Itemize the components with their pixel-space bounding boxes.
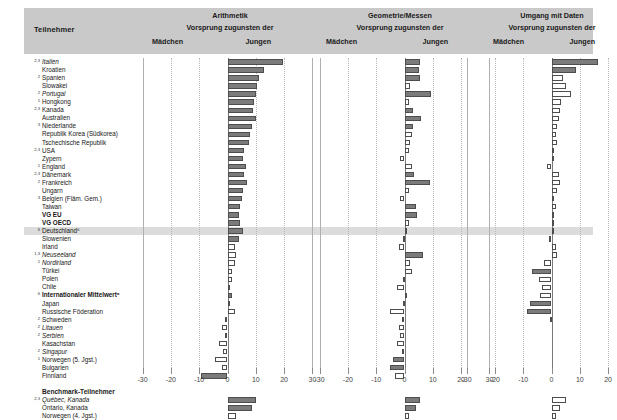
- bar-geometrie: [405, 108, 413, 113]
- bar-geometrie: [397, 341, 404, 346]
- axis-tick: [580, 368, 582, 374]
- bar-arithmetik: [228, 301, 230, 306]
- bar-arithmetik: [228, 116, 256, 121]
- bar-geometrie: [405, 124, 413, 129]
- bar-arithmetik: [228, 132, 251, 137]
- bar-arithmetik: [228, 244, 235, 249]
- participant-label: Schweden: [42, 316, 71, 324]
- bar-daten: [552, 83, 566, 88]
- bar-geometrie: [400, 333, 404, 338]
- bar-geometrie: [400, 196, 404, 201]
- gridline--10: [199, 58, 201, 368]
- footnote-marker: 2,3: [24, 395, 40, 403]
- bar-geometrie: [405, 204, 416, 209]
- bar-geometrie: [405, 413, 409, 418]
- gridline-20: [608, 58, 610, 368]
- participant-label: Kanada: [42, 106, 64, 114]
- bar-daten: [552, 91, 572, 96]
- bar-arithmetik: [228, 405, 252, 410]
- axis-tick-label: -20: [166, 376, 176, 383]
- bar-daten: [552, 116, 559, 121]
- bar-geometrie: [405, 260, 411, 265]
- axis-tick: [171, 368, 173, 374]
- footnote-marker: 3: [24, 194, 40, 202]
- bar-arithmetik: [228, 252, 236, 257]
- bar-geometrie: [405, 397, 421, 402]
- bar-arithmetik: [228, 196, 242, 201]
- participant-label: Québec, Kanada: [42, 396, 89, 404]
- axis-tick-label: -10: [518, 376, 528, 383]
- bar-daten: [530, 301, 551, 306]
- gridline-20: [284, 58, 286, 368]
- participant-label: Japan: [42, 300, 59, 308]
- bar-arithmetik: [228, 220, 241, 225]
- bar-geometrie: [402, 317, 405, 322]
- gridline-20: [461, 58, 463, 368]
- panel-subtitle: Vorsprung zugunsten der: [320, 23, 480, 32]
- panel-title: Arithmetik: [146, 11, 314, 20]
- bar-daten: [552, 59, 599, 64]
- panel-header-3: Umgang mit DatenVorsprung zugunsten derM…: [487, 8, 617, 54]
- axis-tick-label: 10: [576, 376, 584, 383]
- bar-daten: [552, 108, 560, 113]
- axis-tick: [256, 368, 258, 374]
- bar-daten: [552, 132, 556, 137]
- bar-daten: [552, 228, 555, 233]
- bar-geometrie: [405, 91, 432, 96]
- bar-arithmetik: [228, 260, 235, 265]
- bar-geometrie: [400, 156, 404, 161]
- gridline--10: [376, 58, 378, 368]
- bar-arithmetik: [228, 204, 241, 209]
- gridline-30: [489, 58, 491, 368]
- participant-label: Hongkong: [42, 98, 71, 106]
- participant-label: VG OECD: [42, 219, 71, 227]
- bar-geometrie: [403, 277, 405, 282]
- footnote-marker: 6: [24, 290, 40, 298]
- bar-geometrie: [405, 212, 418, 217]
- axis-tick-label: 20: [280, 376, 288, 383]
- bar-geometrie: [405, 75, 421, 80]
- participant-label: Zypern: [42, 155, 62, 163]
- panel-right-label: Jungen: [423, 37, 449, 46]
- bar-arithmetik: [228, 293, 232, 298]
- gridline--30: [143, 58, 145, 368]
- bar-arithmetik: [228, 99, 255, 104]
- bar-daten: [539, 277, 552, 282]
- participant-label: Frankreich: [42, 179, 72, 187]
- panel-subtitle: Vorsprung zugunsten der: [146, 23, 314, 32]
- bar-geometrie: [405, 148, 409, 153]
- bar-arithmetik: [228, 124, 252, 129]
- participant-label: Spanien: [42, 74, 65, 82]
- bar-geometrie: [405, 132, 412, 137]
- footnote-marker: 2,3: [24, 105, 40, 113]
- axis-tick-label: -10: [194, 376, 204, 383]
- axis-tick: [433, 368, 435, 374]
- participant-label: Kasachstan: [42, 340, 75, 348]
- participant-label: USA: [42, 147, 55, 155]
- participant-label: Finnland: [42, 372, 66, 380]
- participant-label: Türkei: [42, 267, 60, 275]
- participant-label: Litauen: [42, 324, 63, 332]
- bar-arithmetik: [228, 164, 246, 169]
- bar-daten: [549, 236, 552, 241]
- axis-tick-label: 0: [226, 376, 230, 383]
- bar-geometrie: [405, 59, 421, 64]
- gridline--30: [467, 58, 469, 368]
- footnote-marker: 2: [24, 315, 40, 323]
- bar-arithmetik: [228, 108, 253, 113]
- bar-arithmetik: [228, 148, 245, 153]
- participant-label: Russische Föderation: [42, 308, 103, 316]
- bar-geometrie: [405, 83, 411, 88]
- bar-daten: [552, 196, 555, 201]
- footnote-marker: 1: [24, 162, 40, 170]
- gridline--20: [348, 58, 350, 368]
- bar-geometrie: [397, 285, 404, 290]
- bar-geometrie: [405, 220, 409, 225]
- axis-tick-label: -20: [490, 376, 500, 383]
- bar-arithmetik: [219, 341, 227, 346]
- footnote-marker: 2,3: [24, 170, 40, 178]
- panel-left-label: Mädchen: [326, 37, 357, 46]
- bar-geometrie: [405, 116, 422, 121]
- bar-geometrie: [399, 325, 405, 330]
- participant-label: Bulgarien: [42, 364, 69, 372]
